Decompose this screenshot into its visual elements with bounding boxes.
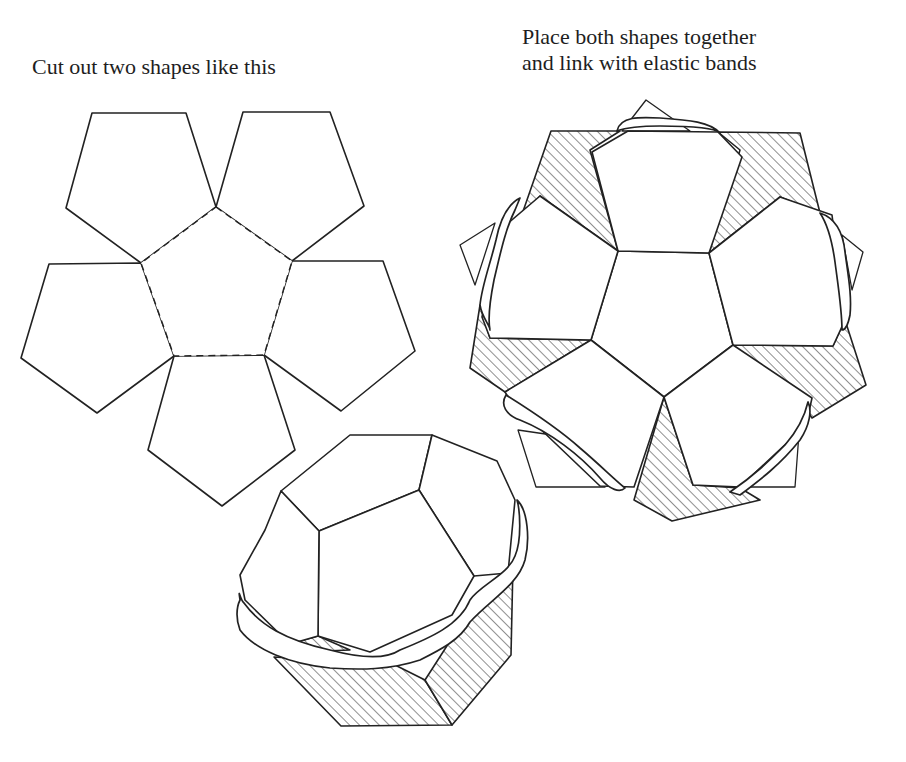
assembled-top-view	[460, 100, 866, 521]
assembled-3d-dodecahedron	[237, 435, 528, 726]
illustration-canvas	[0, 0, 906, 762]
net-face-right	[264, 261, 415, 411]
net-face-bottom	[148, 355, 295, 506]
